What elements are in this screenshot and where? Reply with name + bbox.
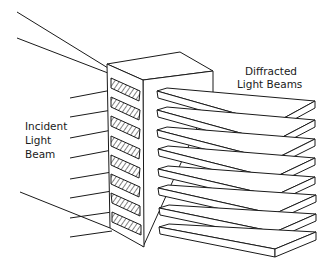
- incident-label: Incident Light Beam: [25, 120, 67, 160]
- diffracted-label: Diffracted Light Beams: [237, 65, 302, 90]
- incident-label-line3: Beam: [25, 148, 55, 160]
- diffraction-diagram: Incident Light Beam Diffracted Light Bea…: [0, 0, 335, 271]
- diffracted-label-line1: Diffracted: [245, 65, 297, 77]
- incident-label-line2: Light: [25, 134, 51, 146]
- incident-label-line1: Incident: [25, 120, 67, 132]
- diffracted-beams: [157, 88, 316, 257]
- diffracted-label-line2: Light Beams: [237, 78, 302, 90]
